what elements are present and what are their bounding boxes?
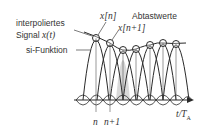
- axis-label: t/TA: [176, 110, 191, 121]
- interpolated-signal-label-line2: Signal x(t): [16, 31, 55, 41]
- tick-n1-label: n+1: [104, 118, 120, 128]
- axis-label-text: t/T: [176, 109, 187, 119]
- xn1-label: x[n+1]: [118, 24, 146, 34]
- samples-label: Abtastwerte: [132, 12, 177, 21]
- tick-n-label: n: [93, 118, 98, 128]
- signal-symbol: x(t): [42, 30, 55, 40]
- xn-label: x[n]: [100, 12, 116, 22]
- sinc-function-label: si-Funktion: [26, 46, 68, 55]
- interpolated-signal-label-line1: interpoliertes: [16, 19, 65, 28]
- signal-word: Signal: [16, 30, 40, 40]
- axis-label-subscript: A: [187, 115, 191, 121]
